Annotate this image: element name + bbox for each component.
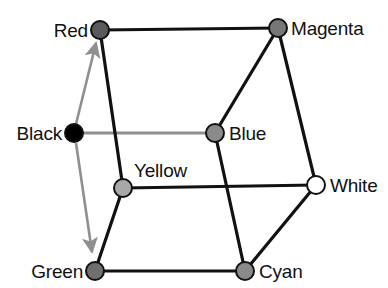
- vertex-label-magenta: Magenta: [291, 19, 364, 38]
- edge-blue-cyan: [215, 133, 245, 271]
- cube-edges: [95, 28, 316, 271]
- cube-graphics: [0, 0, 388, 288]
- vertex-blue: [206, 124, 224, 142]
- vertex-red: [91, 21, 109, 39]
- vertex-label-cyan: Cyan: [259, 262, 303, 281]
- vertex-label-green: Green: [31, 262, 83, 281]
- vertex-white: [307, 176, 325, 194]
- edge-magenta-blue: [215, 28, 278, 133]
- vertex-label-blue: Blue: [229, 124, 266, 143]
- vertex-label-red: Red: [54, 21, 88, 40]
- vertex-label-black: Black: [17, 124, 62, 143]
- axis-arrow-black-to-red: [76, 43, 96, 124]
- edge-magenta-white: [278, 28, 316, 185]
- edge-yellow-white: [123, 185, 316, 188]
- axis-arrow-black-to-green: [76, 143, 92, 252]
- vertex-magenta: [269, 19, 287, 37]
- axis-arrows: [76, 43, 96, 252]
- vertex-label-yellow: Yellow: [134, 161, 187, 180]
- vertex-cyan: [236, 262, 254, 280]
- edge-yellow-green: [95, 188, 123, 271]
- rgb-color-cube-diagram: Red Magenta Black Blue Yellow White Gree…: [0, 0, 388, 288]
- vertex-label-white: White: [330, 176, 378, 195]
- edge-red-magenta: [100, 28, 278, 30]
- edge-cyan-white: [245, 185, 316, 271]
- edge-red-yellow: [100, 30, 123, 188]
- vertex-yellow: [114, 179, 132, 197]
- vertex-black: [65, 124, 83, 142]
- vertex-green: [86, 262, 104, 280]
